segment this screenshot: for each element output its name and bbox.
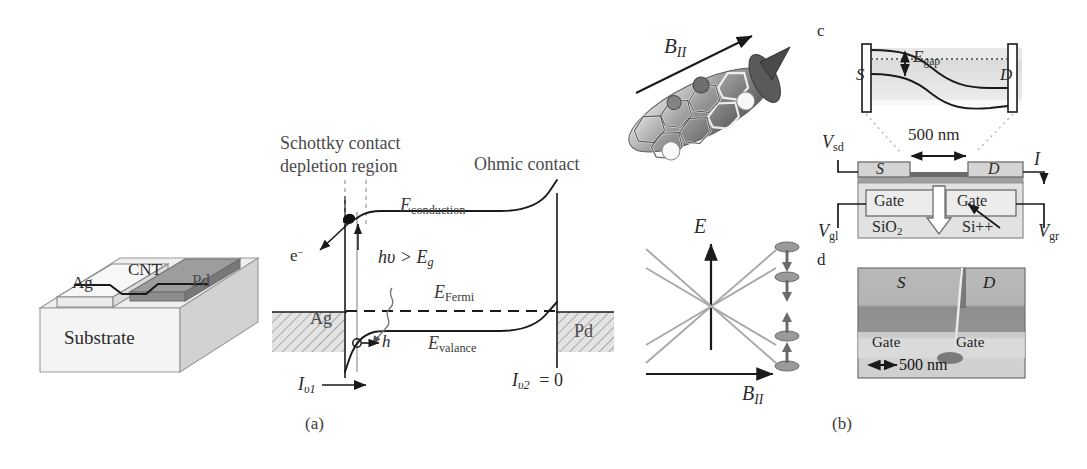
band-bending-drain-label: D [1000, 66, 1012, 84]
band-bending-source-label: S [856, 66, 865, 84]
sem-source-label: S [897, 274, 906, 292]
substrate-doping-label: Si++ [962, 218, 993, 235]
zeeman-x-axis-label: BII [742, 383, 763, 407]
panel-caption-a: (a) [305, 415, 324, 433]
spin-icon-down-1 [775, 242, 799, 272]
cross-section-drain-label: D [988, 160, 1000, 177]
sem-drain-label: D [983, 274, 995, 292]
energy-gap-label: Egap [913, 48, 940, 69]
figure-root: Ag CNT Pd Substrate Schottky contact dep… [0, 0, 1087, 469]
current-label-iv1: Iυ1 [298, 375, 316, 397]
spin-icon-up-2 [775, 342, 799, 371]
inset-label-c: c [817, 22, 825, 40]
valence-band-label: Evalance [428, 334, 476, 356]
substrate-label: Substrate [64, 328, 135, 349]
spin-icon-up-1 [775, 312, 799, 341]
gate-bias-left-label: Vgl [818, 222, 839, 244]
metal-label-pd: Pd [574, 322, 593, 341]
schottky-contact-label-line2: depletion region [280, 157, 397, 176]
electrode-label-ag-3d: Ag [72, 274, 93, 292]
conduction-band-label: Econduction [400, 196, 465, 218]
current-label-iv2: Iυ2 = 0 [512, 371, 563, 393]
nanotube-label-cnt: CNT [128, 261, 162, 279]
electrode-label-pd-3d: Pd [192, 272, 210, 290]
gate-bias-right-label: Vgr [1038, 222, 1059, 244]
current-label-i: I [1034, 150, 1040, 169]
hole-label: h [382, 333, 391, 351]
panel-caption-b: (b) [832, 415, 852, 433]
bias-label-vsd: Vsd [822, 133, 844, 155]
sem-gate-right-label: Gate [956, 334, 984, 350]
ohmic-contact-label: Ohmic contact [474, 155, 579, 174]
cross-section-source-label: S [876, 160, 884, 177]
photon-energy-condition: hυ > Eg [378, 248, 434, 270]
sem-scale-bar-label: 500 nm [899, 356, 947, 373]
inset-label-d: d [817, 251, 826, 269]
sem-gate-left-label: Gate [872, 334, 900, 350]
cross-section-gate-left-label: Gate [874, 192, 904, 209]
zeeman-plot [646, 242, 799, 374]
schottky-contact-label-line1: Schottky contact [280, 134, 400, 153]
fermi-level-label: EFermi [434, 283, 474, 305]
metal-label-ag: Ag [310, 309, 332, 328]
channel-length-label: 500 nm [908, 126, 959, 144]
magnetic-field-label-tube: BII [664, 35, 686, 60]
device-cross-section [838, 156, 1044, 238]
oxide-label: SiO2 [872, 218, 902, 238]
electron-label: e− [290, 247, 304, 265]
cnt-render [617, 36, 790, 174]
cross-section-gate-right-label: Gate [957, 192, 987, 209]
figure-vector-layer [0, 0, 1087, 469]
spin-icon-down-2 [775, 272, 799, 302]
zeeman-y-axis-label: E [694, 216, 706, 238]
